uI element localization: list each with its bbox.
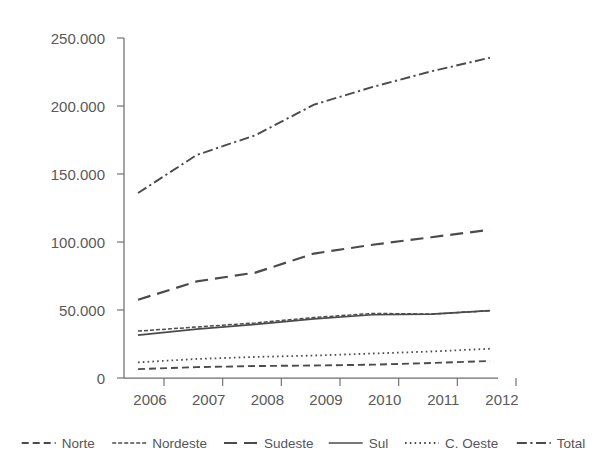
y-axis-tick-label: 250.000 — [51, 30, 105, 47]
x-axis-tick-label: 2007 — [192, 391, 225, 408]
series-line-c-oeste — [138, 349, 490, 363]
chart-series-group — [138, 58, 490, 369]
x-axis-tick-label: 2009 — [309, 391, 342, 408]
series-line-sul — [138, 311, 490, 335]
chart-legend: NorteNordesteSudesteSulC. OesteTotal — [22, 436, 586, 451]
x-axis-tick-label: 2010 — [368, 391, 401, 408]
y-axis-tick-label: 50.000 — [59, 302, 105, 319]
line-chart: 050.000100.000150.000200.000250.000 2006… — [0, 0, 606, 466]
legend-label-sul: Sul — [369, 436, 389, 451]
legend-label-sudeste: Sudeste — [264, 436, 314, 451]
y-axis-tick-label: 0 — [97, 370, 105, 387]
chart-canvas: 050.000100.000150.000200.000250.000 2006… — [0, 0, 606, 466]
x-axis-tick-labels: 2006200720082009201020112012 — [133, 391, 518, 408]
legend-label-total: Total — [557, 436, 586, 451]
chart-axes — [117, 38, 516, 386]
series-line-norte — [138, 361, 490, 369]
legend-label-norte: Norte — [62, 436, 95, 451]
y-axis-tick-label: 150.000 — [51, 166, 105, 183]
x-axis-tick-label: 2011 — [427, 391, 459, 408]
series-line-total — [138, 58, 490, 193]
legend-label-c-oeste: C. Oeste — [445, 436, 498, 451]
x-axis-tick-label: 2006 — [133, 391, 166, 408]
series-line-sudeste — [138, 230, 490, 300]
x-axis-tick-label: 2012 — [485, 391, 518, 408]
legend-label-nordeste: Nordeste — [152, 436, 207, 451]
y-axis-tick-label: 100.000 — [51, 234, 105, 251]
y-axis-tick-label: 200.000 — [51, 98, 105, 115]
y-axis-tick-labels: 050.000100.000150.000200.000250.000 — [51, 30, 105, 387]
x-axis-tick-label: 2008 — [251, 391, 284, 408]
